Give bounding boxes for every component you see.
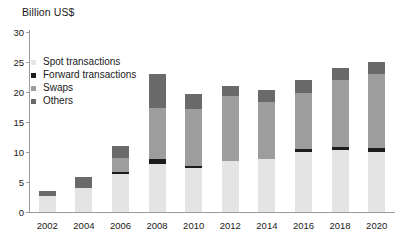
y-tick-label: 0 [0,207,24,218]
bar-segment[interactable] [185,94,202,109]
legend-item[interactable]: Swaps [31,82,136,94]
bar-segment[interactable] [368,152,385,212]
bar-segment[interactable] [258,102,275,160]
x-axis-labels: 2002200420062008201020122014201620182020 [29,214,395,234]
bar-segment[interactable] [295,80,312,93]
bar-segment[interactable] [149,164,166,212]
legend-swatch-icon [31,86,36,91]
bar-segment[interactable] [39,196,56,212]
bar-segment[interactable] [368,74,385,148]
bar-segment[interactable] [258,90,275,101]
stacked-bar[interactable] [258,90,275,212]
bar-segment[interactable] [185,109,202,166]
stacked-bar[interactable] [222,86,239,212]
stacked-bar[interactable] [368,62,385,212]
bar-segment[interactable] [112,158,129,172]
y-tick-label: 20 [0,87,24,98]
bar-segment[interactable] [112,174,129,212]
bar-segment[interactable] [332,68,349,80]
stacked-bar[interactable] [75,177,92,212]
bar-segment[interactable] [112,146,129,158]
legend-item[interactable]: Others [31,95,136,107]
stacked-bar[interactable] [39,191,56,212]
legend-label: Swaps [43,82,73,94]
bar-segment[interactable] [295,152,312,212]
bar-segment[interactable] [222,161,239,212]
bar-segment[interactable] [149,74,166,108]
bar-segment[interactable] [222,96,239,161]
y-tick-mark [26,212,29,213]
y-tick-label: 15 [0,117,24,128]
x-tick-label: 2020 [355,220,399,231]
bar-segment[interactable] [295,93,312,149]
legend-label: Forward transactions [43,69,136,81]
y-tick-label: 5 [0,177,24,188]
bar-segment[interactable] [368,62,385,74]
legend-item[interactable]: Spot transactions [31,56,136,68]
legend-swatch-icon [31,73,36,78]
chart-legend: Spot transactionsForward transactionsSwa… [31,56,136,107]
stacked-bar[interactable] [332,68,349,212]
bar-segment[interactable] [222,86,239,96]
legend-swatch-icon [31,99,36,104]
stacked-bar[interactable] [185,94,202,212]
stacked-bar[interactable] [112,146,129,212]
x-axis-line [29,212,395,213]
bar-segment[interactable] [149,108,166,159]
legend-item[interactable]: Forward transactions [31,69,136,81]
bar-segment[interactable] [258,159,275,212]
legend-label: Others [43,95,73,107]
legend-swatch-icon [31,60,36,65]
bar-segment[interactable] [332,80,349,147]
y-tick-label: 25 [0,57,24,68]
bar-segment[interactable] [75,177,92,188]
legend-label: Spot transactions [43,56,120,68]
bar-segment[interactable] [75,188,92,212]
stacked-bar[interactable] [149,74,166,212]
y-axis-title: Billion US$ [22,6,74,18]
bar-segment[interactable] [332,150,349,212]
stacked-bar-chart: Billion US$ 051015202530 200220042006200… [0,0,401,251]
y-tick-label: 10 [0,147,24,158]
stacked-bar[interactable] [295,80,312,212]
y-tick-label: 30 [0,27,24,38]
bar-segment[interactable] [185,168,202,212]
